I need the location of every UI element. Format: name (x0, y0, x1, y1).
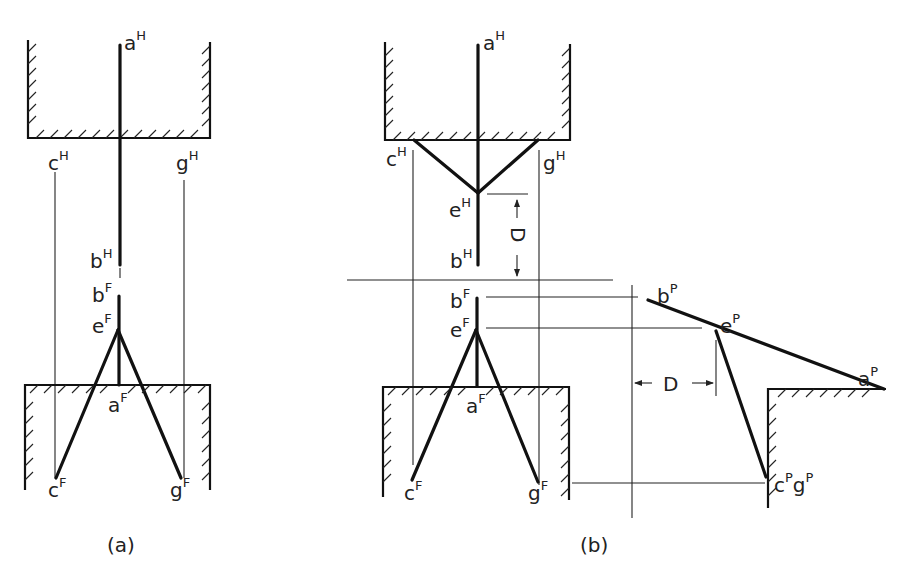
label-eF: eF (450, 315, 470, 342)
dimension-D-horizontal: D (635, 340, 716, 396)
label-cF: cF (404, 478, 422, 505)
member-ge-top (478, 140, 538, 193)
label-gH: gH (176, 148, 198, 175)
label-gF: gF (528, 478, 548, 505)
label-bF: bF (92, 280, 112, 307)
label-cPgP: cPgP (774, 470, 814, 497)
label-bH: bH (450, 246, 472, 273)
caption-b: (b) (580, 533, 608, 557)
panel-b-profile-wall (768, 389, 886, 508)
orthographic-projection-diagram: aH cH gH bH bF eF aF cF gF (a) (0, 0, 910, 571)
svg-text:D: D (506, 227, 530, 242)
caption-a: (a) (107, 533, 135, 557)
panel-a: aH cH gH bH bF eF aF cF gF (a) (25, 28, 210, 557)
member-ce-top (414, 140, 478, 193)
member-eg-front (476, 330, 538, 482)
label-gH: gH (543, 148, 565, 175)
label-aH: aH (483, 28, 505, 55)
label-aF: aF (108, 390, 128, 417)
label-aH: aH (124, 28, 146, 55)
panel-b: D (347, 28, 886, 557)
label-gF: gF (170, 475, 190, 502)
member-ecg-profile (716, 331, 766, 477)
label-bF: bF (450, 286, 470, 313)
dimension-D-vertical: D (487, 194, 530, 276)
label-eF: eF (92, 311, 112, 338)
member-ba-profile (648, 300, 884, 389)
label-aF: aF (466, 391, 486, 418)
label-bH: bH (90, 246, 112, 273)
label-cF: cF (48, 475, 66, 502)
label-cH: cH (386, 144, 407, 171)
label-bP: bP (657, 281, 678, 308)
svg-text:D: D (663, 372, 678, 396)
label-cH: cH (48, 148, 69, 175)
label-eH: eH (449, 195, 471, 222)
